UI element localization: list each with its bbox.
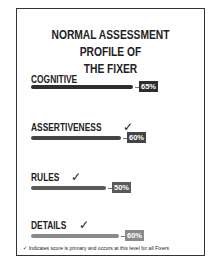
metric-details: DETAILS✓ 60% xyxy=(31,215,201,233)
value-badge: 60% xyxy=(127,132,146,143)
metric-label: DETAILS xyxy=(31,219,66,231)
metric-label: COGNITIVE xyxy=(31,73,77,85)
bar-details xyxy=(31,234,119,238)
metric-label: RULES xyxy=(31,171,59,183)
value-badge: 60% xyxy=(125,230,144,241)
metric-label: ASSERTIVENESS xyxy=(31,121,101,133)
metric-assertiveness: ASSERTIVENESS✓ 60% xyxy=(31,117,201,135)
profile-card: NORMAL ASSESSMENT PROFILE OF THE FIXER C… xyxy=(16,8,205,256)
title-line-1: NORMAL ASSESSMENT PROFILE OF xyxy=(34,27,187,61)
bar-assertiveness xyxy=(31,136,121,140)
bar-rules xyxy=(31,186,106,190)
metric-cognitive: COGNITIVE 65% xyxy=(31,69,201,87)
check-icon: ✓ xyxy=(71,170,81,184)
footnote: ✓ Indicates score is primary and occurs … xyxy=(23,244,169,251)
value-badge: 65% xyxy=(139,81,158,92)
value-badge: 50% xyxy=(112,182,131,193)
bar-cognitive xyxy=(31,85,133,89)
metric-rules: RULES✓ 50% xyxy=(31,167,201,185)
check-icon: ✓ xyxy=(79,218,89,232)
